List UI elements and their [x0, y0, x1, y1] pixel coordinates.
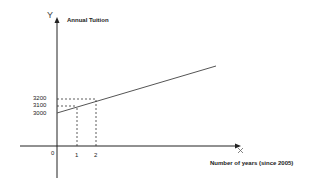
x-axis-arrow-icon: [235, 144, 241, 149]
origin-label: 0: [51, 150, 54, 156]
y-axis-arrow-icon: [55, 17, 60, 23]
y-tick-3100: 3100: [33, 102, 46, 108]
x-tick-1: 1: [75, 152, 78, 158]
y-tick-3000: 3000: [33, 110, 46, 116]
x-tick-2: 2: [94, 152, 97, 158]
x-axis-letter-icon: [238, 148, 243, 153]
y-tick-3200: 3200: [33, 95, 46, 101]
y-axis-label: Annual Tuition: [67, 17, 109, 23]
x-axis-label: Number of years (since 2005): [210, 160, 293, 166]
guide-lines: [57, 99, 96, 146]
y-axis-letter: Y: [47, 10, 53, 20]
tuition-line: [57, 66, 216, 113]
